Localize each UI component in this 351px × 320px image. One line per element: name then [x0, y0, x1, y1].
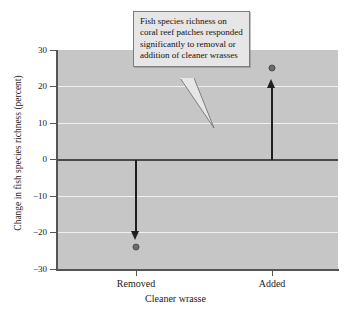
arrow-head-removed [131, 231, 139, 240]
x-tick-label-added: Added [259, 278, 286, 289]
gridline-10 [57, 123, 338, 124]
data-point-removed[interactable] [133, 244, 140, 251]
y-tick-0 [50, 159, 57, 160]
figure-container: 30 20 10 0 −10 −20 −30 Change in fish sp… [0, 0, 351, 320]
figure-caption [10, 310, 351, 320]
arrow-head-added [267, 79, 275, 88]
y-tick-label-20: 20 [38, 82, 47, 91]
plot-area [57, 50, 338, 269]
y-axis-line [56, 50, 58, 270]
callout-annotation: Fish species richness on coral reef patc… [133, 11, 250, 67]
gridline-20 [57, 86, 338, 87]
zero-line [57, 159, 338, 161]
y-tick-label-10: 10 [38, 119, 47, 128]
y-tick-30 [50, 50, 57, 51]
y-tick-minus-20 [50, 232, 57, 233]
y-axis-title: Change in fish species richness (percent… [13, 48, 23, 258]
y-tick-label-minus-20: −20 [33, 228, 47, 237]
y-tick-label-0: 0 [43, 155, 48, 164]
x-axis-line [56, 269, 339, 271]
arrow-shaft-added [271, 88, 273, 160]
gridline-minus-20 [57, 232, 338, 233]
x-tick-removed [136, 270, 137, 276]
arrow-shaft-removed [135, 160, 137, 232]
y-tick-minus-30 [50, 269, 57, 270]
gridline-minus-10 [57, 196, 338, 197]
x-axis-title: Cleaner wrasse [0, 293, 351, 304]
y-tick-10 [50, 123, 57, 124]
y-tick-20 [50, 86, 57, 87]
y-tick-label-minus-10: −10 [33, 192, 47, 201]
y-tick-label-30: 30 [38, 46, 47, 55]
x-tick-added [272, 270, 273, 276]
x-tick-label-removed: Removed [117, 278, 155, 289]
y-tick-label-minus-30: −30 [33, 265, 47, 274]
y-tick-minus-10 [50, 196, 57, 197]
data-point-added[interactable] [269, 65, 276, 72]
